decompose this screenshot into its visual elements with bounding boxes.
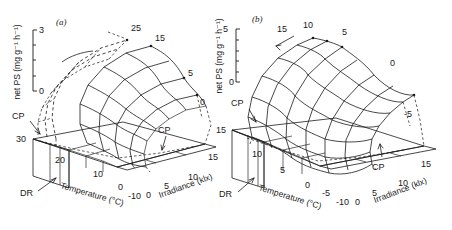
panel-b: (b) 5 0 net PS (mg g⁻¹ h⁻¹) [214, 14, 436, 211]
panel-a-curve-label-5: 5 [188, 68, 193, 78]
panel-b-x-tick-4: -5 [322, 188, 330, 198]
panel-a-y-axis: 0 5 10 15 Irradiance (klx) [146, 152, 218, 200]
panel-a-dr: DR [20, 178, 56, 198]
panel-a-x-axis-label: Temperature (°C) [59, 180, 125, 208]
panel-b-y-tick-3: 15 [421, 159, 431, 169]
panel-a-y-tick-3: 15 [208, 152, 218, 162]
panel-b-dr: DR [219, 178, 254, 199]
panel-a: (a) 3 0 net PS (mg g⁻¹ h⁻¹) [12, 17, 218, 208]
panel-a-x-tick-4: -10 [128, 191, 141, 201]
panel-b-curve-label-m5: -5 [404, 109, 412, 119]
panel-a-z-tick-top: 3 [39, 25, 44, 35]
panel-b-cp-lower-label: CP [372, 162, 385, 172]
panel-a-curve-label-25: 25 [131, 23, 141, 33]
figure-svg: (a) 3 0 net PS (mg g⁻¹ h⁻¹) [0, 0, 452, 230]
panel-a-cp-lower: CP [158, 125, 171, 150]
panel-a-x-tick-3: 0 [118, 182, 123, 192]
panel-a-z-axis-label: net PS (mg g⁻¹ h⁻¹) [12, 24, 22, 99]
panel-a-z-tick-bottom: 0 [39, 86, 44, 96]
panel-b-x-axis-label: Temperature (°C) [257, 182, 323, 211]
panel-a-x-tick-2: 10 [93, 169, 103, 179]
panel-b-curve-label-15: 15 [277, 24, 287, 34]
panel-a-mesh-surface: 15 5 0 [80, 33, 211, 172]
panel-b-y-tick-0: 0 [355, 197, 360, 207]
panel-b-x-tick-3: 0 [305, 180, 310, 190]
panel-b-x-tick-2: 5 [280, 165, 285, 175]
panel-a-cp-upper: CP [12, 111, 40, 134]
panel-a-dr-label: DR [20, 188, 33, 198]
panel-a-id: (a) [56, 17, 67, 27]
panel-a-dashed-surface: 25 [38, 23, 141, 146]
panel-b-curve-label-0: 0 [390, 58, 395, 68]
panel-b-z-axis-label: net PS (mg g⁻¹ h⁻¹) [214, 18, 224, 93]
panel-a-cp-lower-label: CP [158, 125, 171, 135]
panel-a-z-axis: 3 0 net PS (mg g⁻¹ h⁻¹) [12, 24, 44, 99]
panel-b-dr-label: DR [219, 189, 232, 199]
panel-a-x-tick-1: 20 [55, 155, 65, 165]
panel-a-curve-label-0: 0 [200, 97, 205, 107]
panel-b-x-tick-1: 10 [252, 149, 262, 159]
panel-a-y-tick-0: 0 [146, 190, 151, 200]
panel-b-curve-label-10: 10 [303, 20, 313, 30]
panel-b-x-tick-0: 15 [216, 125, 226, 135]
panel-b-id: (b) [252, 14, 263, 24]
panel-a-cp-upper-label: CP [12, 111, 25, 121]
panel-b-z-tick-bottom: 0 [229, 77, 234, 87]
panel-b-cp-lower: CP [372, 144, 385, 172]
panel-b-cp-upper-label: CP [231, 98, 244, 108]
panel-b-x-tick-5: -10 [336, 197, 349, 207]
panel-a-x-tick-0: 30 [16, 134, 26, 144]
panel-b-z-axis: 5 0 net PS (mg g⁻¹ h⁻¹) [214, 18, 240, 93]
panel-a-x-axis: 30 20 10 0 -10 Temperature (°C) [16, 134, 141, 208]
figure-container: (a) 3 0 net PS (mg g⁻¹ h⁻¹) [0, 0, 452, 230]
panel-a-curve-label-15: 15 [155, 33, 165, 43]
panel-b-y-axis: 0 5 10 15 Irradiance (klx) [355, 159, 431, 207]
panel-b-curve-label-5: 5 [342, 27, 347, 37]
